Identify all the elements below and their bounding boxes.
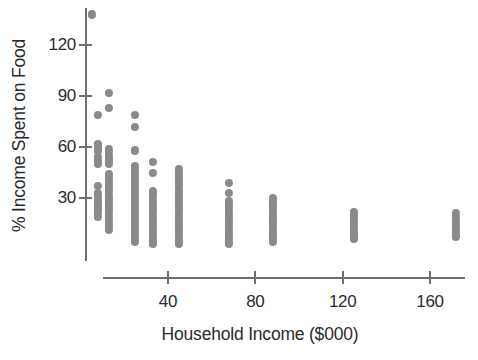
data-point [105,89,113,97]
y-axis-tick [79,95,92,97]
y-axis-line [85,8,87,261]
y-axis-tick-label: 90 [34,86,76,106]
data-point [131,111,139,119]
y-axis-tick-label: 30 [34,188,76,208]
y-axis-title-text: % Income Spent on Food [10,38,31,231]
y-axis-tick-label: 120 [34,35,76,55]
data-point [105,104,113,112]
data-point [452,233,460,241]
data-point [94,160,102,168]
data-point [94,111,102,119]
x-axis-tick [429,271,431,284]
x-axis-tick [167,271,169,284]
data-point [225,189,233,197]
data-point [131,238,139,246]
y-axis-tick [79,197,92,199]
data-point [149,240,157,248]
scatter-plot-figure: % Income Spent on Food 306090120 4080120… [0,0,478,360]
data-point [105,160,113,168]
data-point [225,240,233,248]
data-point [105,226,113,234]
x-axis-line [103,277,465,279]
data-point [87,10,95,18]
y-axis-tick-label: 60 [34,137,76,157]
y-axis-tick [79,44,92,46]
x-axis-title: Household Income ($000) [60,324,460,345]
x-axis-tick [254,271,256,284]
data-point [349,235,357,243]
data-point [175,240,183,248]
data-point [149,158,157,166]
data-point [131,123,139,131]
y-axis-tick [79,146,92,148]
data-point [269,238,277,246]
data-point [225,179,233,187]
x-axis-tick [342,271,344,284]
x-axis-tick-label: 40 [143,292,193,312]
x-axis-tick-label: 160 [405,292,455,312]
x-axis-tick-label: 120 [318,292,368,312]
data-point [149,168,157,176]
x-axis-tick-label: 80 [230,292,280,312]
data-point [94,213,102,221]
data-point [131,146,139,154]
